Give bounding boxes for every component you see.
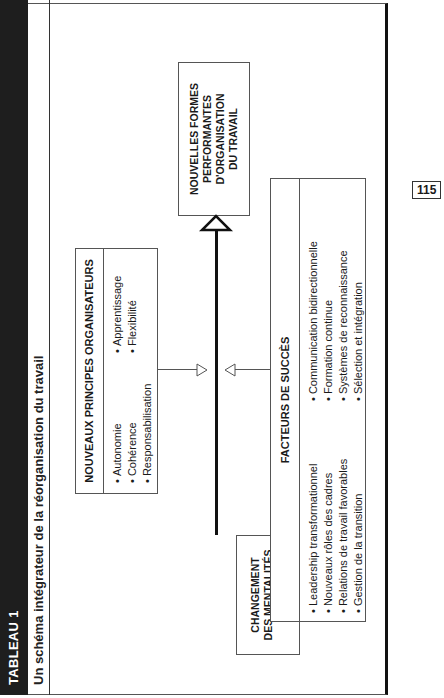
rotated-figure: TABLEAU 1 Un schéma intégrateur de la ré… [0,0,444,698]
facteurs-arrow-icon [0,0,444,698]
